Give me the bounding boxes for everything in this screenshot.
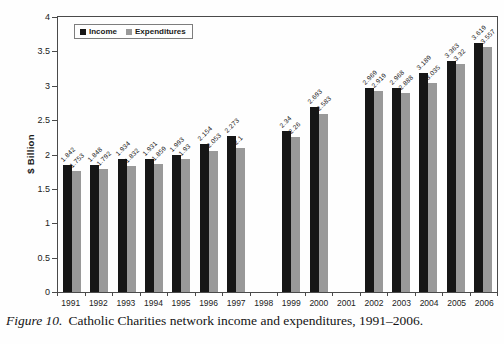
bar-group-2001 xyxy=(332,17,359,292)
bar-expenditures-2005: 3.32 xyxy=(456,64,465,292)
bar-group-2002: 2.9692.919 xyxy=(360,17,387,292)
bar-group-2000: 2.6932.583 xyxy=(305,17,332,292)
bar-income-2005: 3.363 xyxy=(447,61,456,292)
bar-value-label: 2.273 xyxy=(223,116,241,134)
x-tick-mark xyxy=(497,293,498,296)
x-tick-label-1995: 1995 xyxy=(167,298,195,308)
x-tick-mark xyxy=(250,293,251,296)
x-tick-mark xyxy=(277,293,278,296)
bar-income-2002: 2.969 xyxy=(365,88,374,292)
bar-income-2000: 2.693 xyxy=(310,107,319,292)
x-tick-mark xyxy=(112,293,113,296)
bar-group-2003: 2.9682.888 xyxy=(387,17,414,292)
x-tick-mark xyxy=(387,293,388,296)
x-tick-mark xyxy=(167,293,168,296)
bar-income-2004: 3.189 xyxy=(419,73,428,292)
bar-group-1993: 1.9341.832 xyxy=(113,17,140,292)
y-tick-label-4: 4 xyxy=(14,12,50,22)
x-tick-label-2006: 2006 xyxy=(470,298,498,308)
x-tick-mark xyxy=(195,293,196,296)
y-tick-label-2.5: 2.5 xyxy=(14,115,50,125)
x-tick-mark xyxy=(140,293,141,296)
x-tick-mark xyxy=(332,293,333,296)
x-tick-mark xyxy=(442,293,443,296)
bar-income-1995: 1.993 xyxy=(172,155,181,292)
x-tick-label-1999: 1999 xyxy=(278,298,306,308)
y-tick-label-1.5: 1.5 xyxy=(14,184,50,194)
bar-group-1999: 2.342.26 xyxy=(278,17,305,292)
x-tick-mark xyxy=(222,293,223,296)
x-tick-label-2002: 2002 xyxy=(360,298,388,308)
x-tick-mark xyxy=(360,293,361,296)
bar-expenditures-1991: 1.753 xyxy=(72,171,81,292)
x-tick-label-1993: 1993 xyxy=(112,298,140,308)
figure: $ Billion 43.532.521.510.50 IncomeExpend… xyxy=(0,0,504,344)
bar-value-label: 3.035 xyxy=(424,64,442,82)
x-tick-label-2003: 2003 xyxy=(388,298,416,308)
x-tick-mark xyxy=(470,293,471,296)
bar-expenditures-1995: 1.93 xyxy=(181,159,190,292)
bar-expenditures-2003: 2.888 xyxy=(401,93,410,292)
bar-expenditures-2006: 3.557 xyxy=(483,47,492,292)
bar-expenditures-2004: 3.035 xyxy=(428,83,437,292)
x-tick-label-2004: 2004 xyxy=(415,298,443,308)
x-tick-label-1997: 1997 xyxy=(222,298,250,308)
bar-income-2006: 3.619 xyxy=(474,43,483,292)
bar-income-1991: 1.842 xyxy=(63,165,72,292)
figure-caption: Figure 10.Catholic Charities network inc… xyxy=(6,313,500,329)
bar-group-1995: 1.9931.93 xyxy=(168,17,195,292)
bar-income-1993: 1.934 xyxy=(118,159,127,292)
bar-income-2003: 2.968 xyxy=(392,88,401,292)
bars-container: 1.8421.7531.8481.7921.9341.8321.9311.859… xyxy=(58,17,497,292)
bar-expenditures-1996: 2.053 xyxy=(209,151,218,292)
x-tick-label-1996: 1996 xyxy=(195,298,223,308)
y-tick-label-3: 3 xyxy=(14,81,50,91)
bar-income-1996: 2.154 xyxy=(200,144,209,292)
y-tick-label-1: 1 xyxy=(14,218,50,228)
bar-income-1994: 1.931 xyxy=(145,159,154,292)
bar-group-1992: 1.8481.792 xyxy=(85,17,112,292)
bar-group-2006: 3.6193.557 xyxy=(470,17,497,292)
caption-text: Catholic Charities network income and ex… xyxy=(69,313,424,328)
bar-group-2004: 3.1893.035 xyxy=(415,17,442,292)
plot-area: IncomeExpenditures 1.8421.7531.8481.7921… xyxy=(57,16,498,293)
x-tick-label-2000: 2000 xyxy=(305,298,333,308)
x-tick-mark xyxy=(415,293,416,296)
caption-figure-number: Figure 10. xyxy=(6,313,63,328)
bar-expenditures-1993: 1.832 xyxy=(127,166,136,292)
x-tick-mark xyxy=(305,293,306,296)
y-tick-label-0.5: 0.5 xyxy=(14,253,50,263)
bar-income-1992: 1.848 xyxy=(90,165,99,292)
bar-group-1991: 1.8421.753 xyxy=(58,17,85,292)
x-axis-labels: 1991199219931994199519961997199819992000… xyxy=(57,298,498,308)
bar-expenditures-1992: 1.792 xyxy=(99,169,108,292)
y-tick-label-0: 0 xyxy=(14,287,50,297)
bar-expenditures-1999: 2.26 xyxy=(291,137,300,292)
x-tick-mark xyxy=(85,293,86,296)
bar-income-1999: 2.34 xyxy=(282,131,291,292)
x-tick-label-1994: 1994 xyxy=(140,298,168,308)
x-tick-label-1991: 1991 xyxy=(57,298,85,308)
bar-expenditures-1997: 2.1 xyxy=(236,148,245,292)
bar-group-1998 xyxy=(250,17,277,292)
x-tick-label-1992: 1992 xyxy=(85,298,113,308)
bar-group-2005: 3.3633.32 xyxy=(442,17,469,292)
x-tick-mark xyxy=(57,293,58,296)
x-tick-label-2001: 2001 xyxy=(333,298,361,308)
x-tick-label-2005: 2005 xyxy=(443,298,471,308)
bar-group-1996: 2.1542.053 xyxy=(195,17,222,292)
bar-expenditures-2002: 2.919 xyxy=(374,91,383,292)
bar-income-1997: 2.273 xyxy=(227,136,236,292)
bar-group-1997: 2.2732.1 xyxy=(223,17,250,292)
y-tick-label-2: 2 xyxy=(14,150,50,160)
bar-expenditures-2000: 2.583 xyxy=(319,114,328,292)
y-tick-label-3.5: 3.5 xyxy=(14,46,50,56)
bar-expenditures-1994: 1.859 xyxy=(154,164,163,292)
bar-group-1994: 1.9311.859 xyxy=(140,17,167,292)
x-tick-label-1998: 1998 xyxy=(250,298,278,308)
